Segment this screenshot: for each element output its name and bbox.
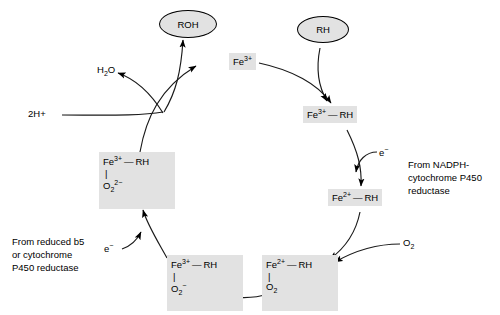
state-ferrous-dioxygen-axial: O2 bbox=[266, 281, 334, 295]
state-ferric-free-formula: Fe3+ bbox=[233, 54, 252, 69]
axial-bond-ferric-superoxide: | bbox=[171, 272, 239, 281]
axial-bond-ferric-peroxide: | bbox=[103, 169, 171, 178]
annotation-nadph-donor: From NADPH- cytochrome P450 reductase bbox=[408, 158, 482, 197]
arc-ferric-substrate-to-ferrous bbox=[347, 130, 361, 186]
substrate-rh-node: RH bbox=[297, 16, 349, 43]
state-ferric-substrate: Fe3+ — RH bbox=[303, 106, 357, 123]
annotation-b5-donor: From reduced b5 or cytochrome P450 reduc… bbox=[12, 235, 84, 274]
annotation-nadph-line-1: From NADPH- bbox=[408, 158, 482, 171]
state-ferrous-substrate: Fe2+ — RH bbox=[328, 189, 382, 206]
annotation-nadph-line-2: cytochrome P450 bbox=[408, 171, 482, 184]
state-ferric-peroxide: Fe3+ — RH | O22− bbox=[99, 152, 175, 209]
state-ferric-superoxide-axial: O2− bbox=[171, 281, 239, 297]
state-ferric-superoxide: Fe3+ — RH | O2− bbox=[167, 255, 243, 311]
dioxygen-label: O2 bbox=[403, 237, 414, 251]
state-ferrous-dioxygen-formula: Fe2+ — RH bbox=[266, 257, 334, 272]
p450-cycle-diagram: ROH RH Fe3+ Fe3+ — RH Fe2+ — RH Fe2+ — R… bbox=[0, 0, 500, 315]
arrow-substrate-input bbox=[318, 48, 327, 101]
water-label: H2O bbox=[97, 64, 115, 78]
arrow-dioxygen-input bbox=[335, 244, 400, 262]
arc-superoxide-to-peroxide bbox=[143, 210, 167, 258]
state-ferric-substrate-formula: Fe3+ — RH bbox=[307, 107, 353, 122]
product-roh-node: ROH bbox=[159, 10, 217, 38]
arc-peroxide-to-ferric bbox=[140, 66, 196, 152]
annotation-nadph-line-3: reductase bbox=[408, 184, 482, 197]
arc-ferric-to-ferric-substrate bbox=[259, 63, 331, 103]
product-roh-label: ROH bbox=[177, 19, 198, 30]
arc-ferrous-to-oxy bbox=[330, 212, 360, 259]
annotation-b5-line-2: or cytochrome bbox=[12, 248, 84, 261]
annotation-b5-line-3: P450 reductase bbox=[12, 261, 84, 274]
state-ferric-free: Fe3+ bbox=[229, 53, 256, 70]
state-ferrous-dioxygen: Fe2+ — RH | O2 bbox=[262, 255, 338, 311]
arrow-protons-input bbox=[62, 112, 163, 115]
axial-bond-ferrous-dioxygen: | bbox=[266, 272, 334, 281]
arrow-water-release bbox=[118, 73, 163, 113]
protons-label: 2H+ bbox=[28, 108, 46, 121]
state-ferrous-substrate-formula: Fe2+ — RH bbox=[332, 190, 378, 205]
annotation-b5-line-1: From reduced b5 bbox=[12, 235, 84, 248]
state-ferric-superoxide-formula: Fe3+ — RH bbox=[171, 257, 239, 272]
state-ferric-peroxide-axial: O22− bbox=[103, 178, 171, 194]
electron-nadph-label: e− bbox=[379, 145, 388, 160]
state-ferric-peroxide-formula: Fe3+ — RH bbox=[103, 154, 171, 169]
arrow-product-release bbox=[164, 40, 183, 112]
electron-b5-label: e− bbox=[104, 241, 113, 256]
arrow-electron-nadph bbox=[356, 152, 377, 172]
arrow-electron-b5 bbox=[122, 232, 141, 249]
substrate-rh-label: RH bbox=[316, 24, 330, 35]
